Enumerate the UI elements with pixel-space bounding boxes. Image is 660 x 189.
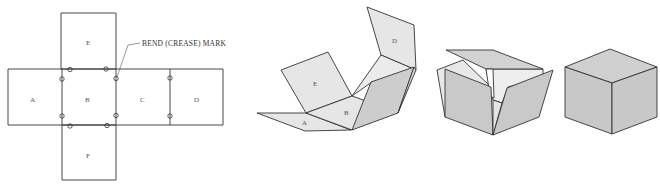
- crease-mark-icon: [68, 124, 72, 128]
- net-label-c: C: [140, 96, 145, 104]
- flat-net: E A B C D F BEND (CREASE) MARK: [8, 13, 226, 180]
- net-label-d: D: [194, 96, 199, 104]
- bend-crease-mark-callout: BEND (CREASE) MARK: [142, 39, 226, 48]
- stage2-label-b: B: [344, 109, 349, 117]
- callout-leader-line: [117, 43, 140, 77]
- stage2-label-d: D: [392, 37, 397, 45]
- cube-folding-diagram: E A B C D F BEND (CREASE) MARK D E B A: [0, 0, 660, 189]
- closed-cube: [565, 49, 657, 134]
- stage3-left-side: [445, 69, 493, 135]
- crease-mark-icon: [68, 67, 72, 71]
- net-horizontal-strip: [8, 69, 223, 125]
- nearly-closed-box: [437, 50, 553, 135]
- partially-folded-net: D E B A: [257, 7, 416, 131]
- net-label-f: F: [86, 152, 90, 160]
- crease-mark-icon: [105, 123, 109, 127]
- net-label-e: E: [86, 39, 90, 47]
- stage2-label-e: E: [313, 80, 317, 88]
- net-label-b: B: [85, 96, 90, 104]
- stage2-label-a: A: [302, 119, 307, 127]
- net-label-a: A: [30, 96, 35, 104]
